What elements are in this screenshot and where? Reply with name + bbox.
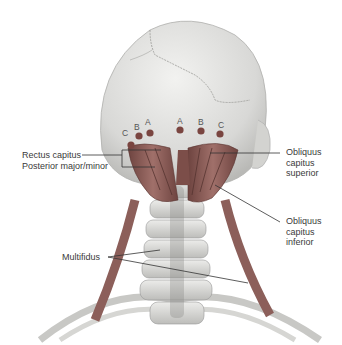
point-a-right	[176, 126, 183, 133]
obl-sup-line-2: capitus	[286, 158, 322, 169]
point-c-right	[216, 130, 223, 137]
obl-sup-line-1: Obliquus	[286, 147, 322, 158]
point-label-a-right: A	[177, 116, 183, 126]
obl-inf-line-2: capitus	[286, 227, 322, 238]
obl-inf-line-1: Obliquus	[286, 216, 322, 227]
point-a-left	[146, 129, 153, 136]
obl-inf-line-3: inferior	[286, 237, 322, 248]
label-obliquus-inferior: Obliquus capitus inferior	[286, 216, 322, 248]
point-label-a-left: A	[145, 117, 151, 127]
point-label-b-left: B	[134, 122, 140, 132]
label-multifidus: Multifidus	[62, 252, 100, 263]
rectus-line-2: Posterior major/minor	[22, 161, 108, 172]
point-c-left	[127, 141, 134, 148]
label-obliquus-superior: Obliquus capitus superior	[286, 147, 322, 179]
anatomy-figure: C B A A B C Rectus capitus Posterior maj…	[0, 0, 342, 345]
point-label-b-right: B	[198, 117, 204, 127]
point-b-right	[197, 127, 204, 134]
label-rectus-capitus: Rectus capitus Posterior major/minor	[22, 150, 108, 171]
point-label-c-right: C	[218, 120, 224, 130]
point-label-c-left: C	[122, 128, 128, 138]
point-b-left	[135, 132, 142, 139]
obl-sup-line-3: superior	[286, 168, 322, 179]
rectus-line-1: Rectus capitus	[22, 150, 108, 161]
